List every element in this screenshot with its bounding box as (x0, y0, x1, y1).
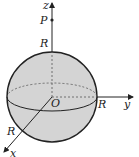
x-axis-label: x (10, 147, 17, 157)
y-axis-label: y (123, 98, 131, 111)
radius-top-label: R (39, 37, 48, 50)
sphere-diagram: z P R O R y R x (0, 0, 139, 157)
point-p-label: P (39, 14, 48, 27)
z-axis-label: z (42, 0, 49, 12)
origin-label: O (51, 97, 60, 110)
radius-right-label: R (97, 98, 106, 111)
radius-front-label: R (6, 125, 15, 138)
point-p (50, 18, 53, 21)
